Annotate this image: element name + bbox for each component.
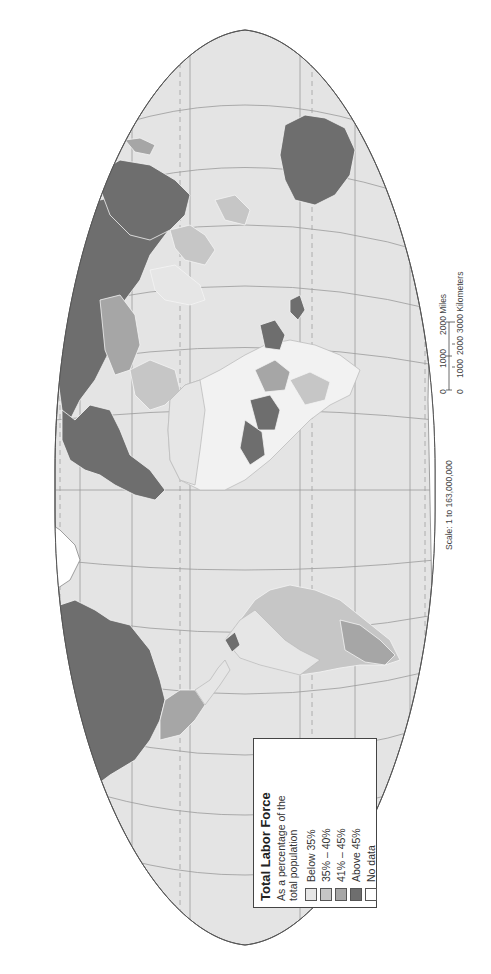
legend-item-below-35: Below 35% — [303, 745, 318, 901]
scale-km-3000: 3000 Kilometers — [455, 272, 465, 333]
legend-label: Above 45% — [350, 828, 362, 882]
legend-subtitle-line2: total population — [287, 745, 299, 901]
legend-subtitle-line1: As a percentage of the — [275, 745, 287, 901]
scale-km-1000: 1000 — [455, 359, 465, 378]
legend-label: 41% – 45% — [335, 828, 347, 882]
legend-label: Below 35% — [305, 829, 317, 882]
swatch-41-45 — [335, 888, 347, 901]
swatch-no-data — [365, 888, 377, 901]
legend-item-above-45: Above 45% — [348, 745, 363, 901]
legend-title: Total Labor Force — [258, 745, 273, 901]
legend: Total Labor Force As a percentage of the… — [253, 738, 377, 908]
legend-item-no-data: No data — [363, 745, 378, 901]
scale-miles-2000: 2000 Miles — [438, 294, 448, 335]
legend-label: No data — [365, 845, 377, 882]
swatch-above-45 — [350, 888, 362, 901]
legend-item-35-40: 35% – 40% — [318, 745, 333, 901]
scale-miles-0: 0 — [438, 389, 448, 394]
scale-ratio-label: Scale: 1 to 163,000,000 — [444, 460, 454, 550]
world-map — [0, 0, 491, 974]
legend-item-41-45: 41% – 45% — [333, 745, 348, 901]
legend-label: 35% – 40% — [320, 828, 332, 882]
legend-subtitle: As a percentage of the total population — [275, 745, 299, 901]
scale-km-0: 0 — [455, 389, 465, 394]
swatch-below-35 — [305, 888, 317, 901]
scale-km-2000: 2000 — [455, 336, 465, 355]
scale-miles-1000: 1000 — [438, 349, 448, 368]
swatch-35-40 — [320, 888, 332, 901]
region-alaska — [50, 800, 95, 875]
